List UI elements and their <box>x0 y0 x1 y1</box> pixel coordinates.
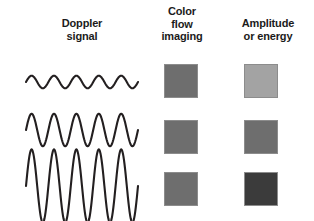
doppler-comparison-figure: Doppler signal Color flow imaging Amplit… <box>0 0 314 221</box>
header-line: signal <box>30 30 134 43</box>
waveform-row-medium <box>26 107 138 153</box>
column-header-amplitude-or-energy: Amplitude or energy <box>224 17 312 42</box>
waveform-path <box>26 114 138 147</box>
header-line: Color <box>148 5 216 18</box>
waveform-path <box>26 76 138 89</box>
sine-wave-icon <box>26 155 138 217</box>
amplitude-swatch-row-medium <box>244 120 278 154</box>
color-flow-swatch-row-medium <box>164 120 198 154</box>
amplitude-swatch-row-high <box>244 172 278 206</box>
sine-wave-icon <box>26 63 138 101</box>
waveform-path <box>26 149 138 221</box>
waveform-row-low <box>26 63 138 101</box>
column-header-doppler-signal: Doppler signal <box>30 17 134 42</box>
color-flow-swatch-row-low <box>164 64 198 98</box>
header-line: Doppler <box>30 17 134 30</box>
header-line: flow <box>148 18 216 31</box>
color-flow-swatch-row-high <box>164 172 198 206</box>
header-line: imaging <box>148 30 216 43</box>
amplitude-swatch-row-low <box>244 64 278 98</box>
header-line: Amplitude <box>224 17 312 30</box>
column-header-color-flow-imaging: Color flow imaging <box>148 5 216 43</box>
sine-wave-icon <box>26 107 138 153</box>
header-line: or energy <box>224 30 312 43</box>
waveform-row-high <box>26 155 138 217</box>
